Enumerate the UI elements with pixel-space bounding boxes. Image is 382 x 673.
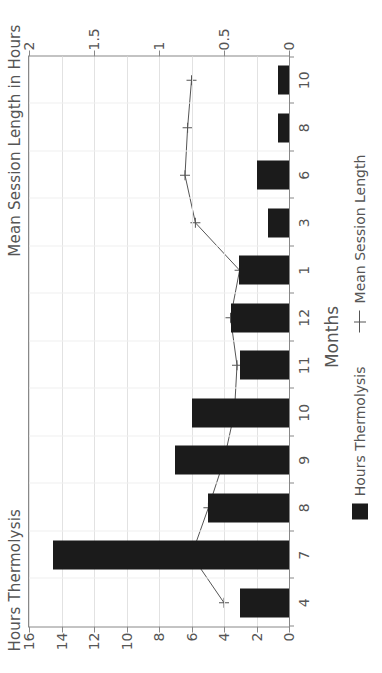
- x-axis-tick: 6: [296, 170, 312, 179]
- right-axis-tickmark: [289, 50, 290, 56]
- right-axis-tick: 1.5: [86, 28, 102, 50]
- x-axis-tickmark: [289, 483, 294, 484]
- x-axis-tick: 1: [296, 265, 312, 274]
- x-axis-tickmark: [289, 245, 294, 246]
- left-axis-tickmark: [289, 626, 290, 632]
- category-separator: [29, 388, 289, 389]
- right-axis-tick: 0.5: [216, 28, 232, 50]
- legend-item-bars: Hours Thermolysis: [352, 366, 368, 519]
- x-axis-tickmark: [289, 198, 294, 199]
- x-axis-tickmark: [289, 56, 294, 57]
- left-axis-tick: 0: [281, 632, 297, 641]
- bar: [175, 445, 289, 474]
- bar: [278, 113, 289, 142]
- legend-label-line: Mean Session Length: [352, 154, 368, 303]
- left-axis-tickmark: [257, 626, 258, 632]
- left-axis-tick: 10: [119, 632, 135, 650]
- left-axis-tickmark: [62, 626, 63, 632]
- right-axis-tickmark: [224, 50, 225, 56]
- x-axis-tick: 8: [296, 123, 312, 132]
- left-axis-tickmark: [29, 626, 30, 632]
- bar: [268, 208, 289, 237]
- x-axis-tick: 7: [296, 550, 312, 559]
- left-axis-tick: 2: [249, 632, 265, 641]
- bar-swatch-icon: [352, 503, 368, 519]
- x-axis-tickmark: [289, 293, 294, 294]
- left-axis-tickmark: [224, 626, 225, 632]
- bar: [240, 588, 289, 617]
- left-axis-tick: 12: [86, 632, 102, 650]
- category-separator: [29, 435, 289, 436]
- x-axis-tickmark: [289, 530, 294, 531]
- right-axis-tick: 0: [281, 41, 297, 50]
- x-axis-tickmark: [289, 150, 294, 151]
- left-axis-tick: 8: [151, 632, 167, 641]
- bar: [231, 303, 290, 332]
- x-axis-tickmark: [289, 578, 294, 579]
- legend-item-line: Mean Session Length: [352, 154, 368, 332]
- bar: [278, 65, 289, 94]
- right-axis-title: Mean Session Length in Hours: [6, 24, 24, 256]
- x-axis-tick: 8: [296, 503, 312, 512]
- left-axis-tickmark: [159, 626, 160, 632]
- rotated-chart-wrapper: Hours Thermolysis Mean Session Length in…: [0, 0, 382, 673]
- right-axis-tick: 1: [151, 41, 167, 50]
- category-separator: [29, 245, 289, 246]
- x-axis-label: Months: [322, 0, 342, 673]
- x-axis-tick: 10: [296, 71, 312, 89]
- category-separator: [29, 483, 289, 484]
- left-axis-tick: 16: [21, 632, 37, 650]
- category-separator: [29, 530, 289, 531]
- x-axis-tick: 10: [296, 403, 312, 421]
- x-axis-tick: 3: [296, 218, 312, 227]
- x-axis-tick: 4: [296, 598, 312, 607]
- plot-area: 024681012141600.511.524789101112136810: [28, 55, 290, 627]
- bar: [53, 540, 289, 569]
- bar: [240, 350, 289, 379]
- category-separator: [29, 103, 289, 104]
- category-separator: [29, 578, 289, 579]
- right-axis-tick: 2: [21, 41, 37, 50]
- x-axis-tickmark: [289, 625, 294, 626]
- category-separator: [29, 198, 289, 199]
- legend-label-bars: Hours Thermolysis: [352, 366, 368, 496]
- bar: [239, 255, 289, 284]
- x-axis-tickmark: [289, 340, 294, 341]
- right-axis-tickmark: [159, 50, 160, 56]
- x-axis-tick: 9: [296, 455, 312, 464]
- left-axis-tick: 14: [54, 632, 70, 650]
- right-axis-tickmark: [29, 50, 30, 56]
- x-axis-tickmark: [289, 103, 294, 104]
- category-separator: [29, 293, 289, 294]
- line-plus-swatch-icon: [353, 310, 367, 332]
- left-axis-tickmark: [192, 626, 193, 632]
- bar: [257, 160, 290, 189]
- left-axis-tick: 6: [184, 632, 200, 641]
- x-axis-tick: 12: [296, 308, 312, 326]
- x-axis-tickmark: [289, 388, 294, 389]
- left-axis-tickmark: [94, 626, 95, 632]
- right-axis-tickmark: [94, 50, 95, 56]
- left-axis-title: Hours Thermolysis: [6, 508, 24, 651]
- bar: [192, 398, 290, 427]
- chart-legend: Hours Thermolysis Mean Session Length: [352, 0, 368, 673]
- chart-canvas: Hours Thermolysis Mean Session Length in…: [0, 0, 382, 673]
- category-separator: [29, 340, 289, 341]
- left-axis-tickmark: [127, 626, 128, 632]
- line-marker-plus: [180, 170, 190, 180]
- bar: [208, 493, 289, 522]
- left-axis-tick: 4: [216, 632, 232, 641]
- x-axis-tickmark: [289, 435, 294, 436]
- x-axis-tick: 11: [296, 356, 312, 374]
- category-separator: [29, 150, 289, 151]
